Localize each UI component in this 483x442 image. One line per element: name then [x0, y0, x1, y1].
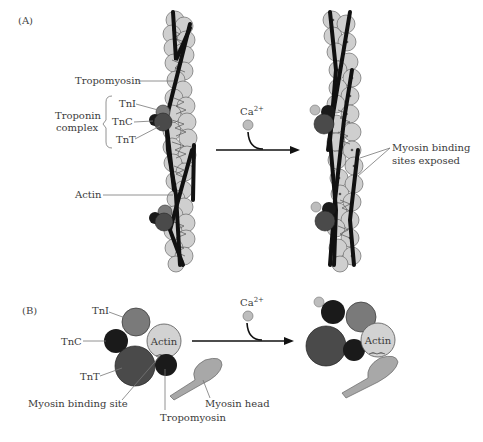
calcium-ion-icon-b: [243, 311, 253, 321]
troponin-brace: [103, 96, 112, 148]
tnc-label: TnC: [112, 116, 133, 127]
tropomyosin-label-b: Tropomyosin: [160, 412, 226, 423]
actin-filament-relaxed: [149, 11, 197, 272]
calcium-label-b: Ca2+: [240, 296, 264, 308]
exposed-sites-label-line1: Myosin binding: [392, 142, 471, 153]
tropomyosin-subunit: [155, 354, 177, 376]
exposed-leader-line-1: [360, 148, 390, 158]
troponin-tropomyosin-diagram: (A): [0, 0, 483, 442]
actin-filament-activated: [310, 11, 363, 272]
tni-label-b: TnI: [92, 305, 109, 316]
myosin-binding-site-label: Myosin binding site: [28, 398, 128, 409]
troponin-complex-label-line1: Troponin: [55, 110, 102, 121]
exposed-leader-line-2: [358, 148, 390, 176]
actin-label-b-left: Actin: [150, 336, 178, 347]
troponin-complex-ca-bound-bottom: [311, 202, 336, 231]
tnt-label-b: TnT: [80, 371, 100, 382]
calcium-label-a: Ca2+: [240, 105, 264, 117]
calcium-arrow-b: Ca2+: [192, 296, 294, 345]
actin-label: Actin: [74, 189, 102, 200]
calcium-curve-arrow: [248, 132, 263, 149]
tnt-circle: [154, 113, 172, 131]
cross-section-activated: Actin: [306, 297, 398, 398]
right-arrow-head-icon: [290, 146, 300, 154]
troponin-complex-ca-bound-top: [310, 105, 335, 134]
right-arrow-head-icon-b: [284, 337, 294, 345]
cross-section-relaxed: Actin: [104, 308, 222, 400]
bound-calcium: [314, 297, 324, 307]
tnt-subunit: [115, 346, 155, 386]
calcium-arrow-a: Ca2+: [216, 105, 300, 154]
troponin-complex-label-line2: complex: [56, 122, 99, 133]
myosin-head-relaxed: [170, 358, 222, 400]
tni-subunit: [122, 308, 150, 336]
tnc-subunit-active: [321, 300, 345, 324]
panel-b-label: (B): [22, 305, 37, 316]
tnt-leader-line: [135, 126, 160, 139]
troponin-complex-bottom: [149, 205, 173, 231]
exposed-sites-label-line2: sites exposed: [392, 155, 461, 166]
tnc-label-b: TnC: [61, 336, 82, 347]
tni-label: TnI: [119, 98, 136, 109]
myosin-head-bound: [342, 356, 398, 398]
tni-leader-line: [136, 104, 158, 110]
myosin-head-leader: [203, 380, 210, 398]
tropomyosin-label: Tropomyosin: [75, 75, 141, 86]
tnt-label: TnT: [116, 134, 136, 145]
myosin-head-label: Myosin head: [205, 398, 270, 409]
calcium-ion-icon: [243, 120, 253, 130]
panel-a-label: (A): [18, 15, 33, 26]
calcium-curve-arrow-b: [247, 323, 262, 340]
actin-label-b-right: Actin: [364, 335, 392, 346]
tnt-subunit-active: [306, 326, 346, 366]
